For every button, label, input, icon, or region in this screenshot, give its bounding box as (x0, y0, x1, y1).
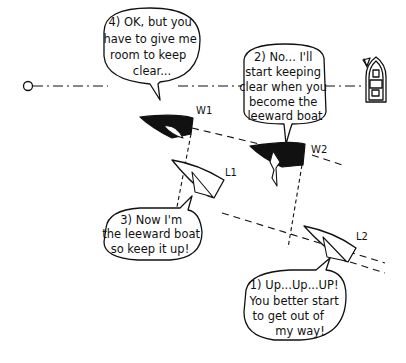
boat-w2: W2 (250, 142, 327, 186)
bubble-1-line-2: You better start (249, 294, 340, 308)
committee-boat-icon (363, 57, 386, 102)
boat-l1: L1 (172, 160, 237, 198)
boat-label-l1: L1 (225, 167, 237, 178)
bubble-4-line-3: room to keep (110, 48, 186, 62)
sailing-diagram: W1 W2 L1 L2 4) OK, but you have to give … (0, 0, 406, 363)
bubble-4-line-2: have to give me (103, 32, 196, 46)
boat-l2: L2 (304, 226, 368, 262)
bubble-4-line-4: clear... (133, 64, 171, 78)
boat-w1: W1 (140, 105, 212, 138)
bubble-1-line-1: 1) Up...Up...UP! (250, 278, 339, 292)
speech-bubble-3: 3) Now I'm the leeward boat so keep it u… (102, 196, 203, 260)
bubble-4-line-1: 4) OK, but you (109, 15, 192, 29)
bubble-1-line-4: my way! (275, 324, 325, 338)
boat-label-w2: W2 (311, 144, 327, 155)
boat-label-w1: W1 (196, 105, 212, 116)
bubble-2-line-3: clear when you (239, 80, 327, 94)
speech-bubble-2: 2) No... I'll start keeping clear when y… (239, 44, 331, 144)
bubble-2-line-1: 2) No... I'll (254, 50, 312, 64)
bubble-1-line-3: to get out of (253, 309, 325, 323)
bubble-2-line-2: start keeping (245, 65, 321, 79)
boat-label-l2: L2 (356, 231, 368, 242)
bubble-2-line-4: become the (249, 95, 318, 109)
bubble-3-line-3: so keep it up! (111, 242, 190, 256)
bubble-2-line-5: leeward boat (247, 109, 323, 123)
bubble-3-line-1: 3) Now I'm (120, 213, 182, 227)
pin-buoy-icon (24, 82, 33, 91)
bubble-3-line-2: the leeward boat (102, 227, 200, 241)
speech-bubble-1: 1) Up...Up...UP! You better start to get… (244, 258, 346, 340)
